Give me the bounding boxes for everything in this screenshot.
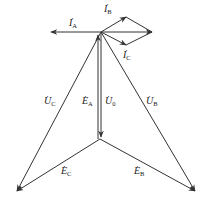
- label-EC: ·EC: [61, 166, 71, 178]
- label-IC: ·IC: [123, 50, 131, 62]
- parallelogram-side-b: [126, 17, 152, 32]
- phasor-EC: [17, 139, 100, 191]
- label-EA: ·EA: [82, 96, 93, 108]
- phasor-UC: [17, 32, 101, 191]
- label-UB: ·UB: [146, 96, 158, 108]
- phasor-UB: [101, 32, 195, 191]
- phasor-EB: [100, 139, 195, 191]
- parallelogram-side-c: [126, 32, 152, 45]
- label-IB: ·IB: [104, 4, 112, 16]
- label-UC: ·UC: [44, 96, 56, 108]
- label-IA: ·IA: [69, 18, 77, 30]
- phasor-IB: [101, 17, 126, 32]
- label-U0: ·U0: [105, 96, 115, 108]
- label-EB: ·EB: [134, 166, 144, 178]
- phasor-diagram: ·IA ·IB ·IC ·UC ·EA ·U0 ·UB ·EC ·EB: [0, 0, 212, 208]
